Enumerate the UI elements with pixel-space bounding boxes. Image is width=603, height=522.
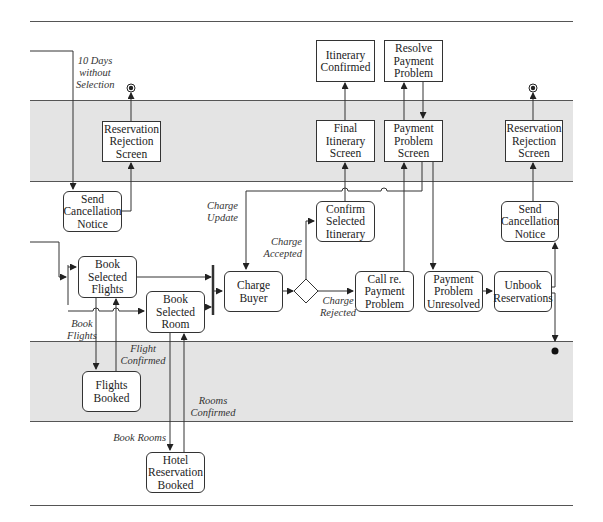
- label-book-flights: Book Flights: [64, 318, 100, 342]
- node-unbook-reservations: Unbook Reservations: [494, 271, 552, 312]
- activity-diagram: Itinerary Confirmed Resolve Payment Prob…: [0, 0, 603, 522]
- node-flights-booked: Flights Booked: [82, 371, 141, 412]
- node-payment-problem-screen: Payment Problem Screen: [384, 120, 443, 162]
- end-node-left: [127, 84, 135, 92]
- node-charge-buyer: Charge Buyer: [224, 271, 283, 312]
- label-charge-update: Charge Update: [198, 200, 238, 224]
- end-node-bottom: [552, 348, 559, 355]
- node-send-cancellation-notice-right: Send Cancellation Notice: [501, 201, 559, 242]
- label-charge-accepted: Charge Accepted: [256, 236, 302, 260]
- label-flight-confirmed: Flight Confirmed: [118, 343, 168, 367]
- label-rooms-confirmed: Rooms Confirmed: [188, 395, 238, 419]
- node-final-itinerary-screen: Final Itinerary Screen: [316, 120, 375, 162]
- label-book-rooms: Book Rooms: [104, 432, 166, 444]
- node-reservation-rejection-screen-right: Reservation Rejection Screen: [505, 120, 563, 162]
- decision-diamond: [294, 279, 318, 303]
- node-confirm-selected-itinerary: Confirm Selected Itinerary: [316, 201, 375, 242]
- node-call-re-payment-problem: Call re. Payment Problem: [355, 271, 414, 312]
- end-node-right: [529, 84, 537, 92]
- node-book-selected-room: Book Selected Room: [146, 291, 205, 333]
- node-itinerary-confirmed: Itinerary Confirmed: [316, 40, 375, 82]
- label-charge-rejected: Charge Rejected: [316, 295, 360, 319]
- node-book-selected-flights: Book Selected Flights: [78, 256, 137, 298]
- node-resolve-payment-problem: Resolve Payment Problem: [384, 40, 443, 82]
- label-10-days-without-selection: 10 Days without Selection: [76, 55, 114, 91]
- node-send-cancellation-notice-left: Send Cancellation Notice: [63, 191, 122, 232]
- node-hotel-reservation-booked: Hotel Reservation Booked: [146, 452, 205, 493]
- node-payment-problem-unresolved: Payment Problem Unresolved: [424, 271, 483, 312]
- node-reservation-rejection-screen-left: Reservation Rejection Screen: [102, 121, 161, 162]
